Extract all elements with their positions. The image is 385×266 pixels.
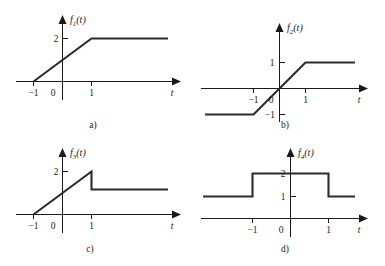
curve-c	[34, 172, 169, 215]
function-arg-c: (t)	[76, 147, 86, 159]
y-tick-label-c-2: 2	[54, 167, 59, 177]
x-axis-label-d: t	[358, 225, 361, 235]
x-tick-label-c-neg1: −1	[28, 221, 38, 231]
y-tick-label-b-1: 1	[270, 58, 275, 68]
curve-d	[203, 174, 355, 197]
figure-canvas: −1 0 1 2 t f1(t) a)	[0, 0, 385, 266]
panel-a: −1 0 1 2 t f1(t) a)	[0, 0, 192, 133]
y-tick-label-a-2: 2	[54, 34, 59, 44]
x-tick-label-b-1: 1	[303, 95, 308, 105]
x-tick-label-c-0: 0	[51, 221, 56, 231]
y-tick-label-d-1: 1	[281, 192, 286, 202]
x-tick-label-a-neg1: −1	[28, 88, 38, 98]
caption-d: d)	[281, 244, 289, 255]
caption-c: c)	[86, 244, 93, 255]
y-axis-arrow-d	[287, 148, 295, 157]
x-axis-label-b: t	[358, 95, 361, 105]
x-tick-label-c-1: 1	[89, 221, 94, 231]
function-label-c: f3(t)	[70, 147, 86, 161]
panel-d: −1 0 1 2 1 t f4(t) d)	[193, 133, 385, 266]
x-tick-label-d-neg1: −1	[247, 225, 257, 235]
function-arg-b: (t)	[293, 22, 303, 34]
x-axis-arrow-d	[359, 215, 368, 223]
function-label-b: f2(t)	[287, 22, 303, 36]
function-label-a: f1(t)	[70, 14, 86, 28]
x-tick-label-b-neg1: −1	[248, 95, 258, 105]
y-axis-arrow-a	[59, 15, 67, 24]
panel-c: −1 0 1 2 t f3(t) c)	[0, 133, 192, 266]
caption-a: a)	[89, 120, 96, 131]
function-arg-d: (t)	[304, 147, 314, 159]
x-axis-label-a: t	[171, 88, 174, 98]
panel-b: −1 0 1 1 −1 t f2(t) b)	[193, 0, 385, 133]
x-axis-label-c: t	[171, 221, 174, 231]
x-axis-arrow-a	[172, 78, 181, 86]
x-tick-label-a-0: 0	[51, 88, 56, 98]
function-label-d: f4(t)	[298, 147, 314, 161]
function-arg-a: (t)	[76, 14, 86, 26]
x-tick-label-b-0: 0	[269, 95, 274, 105]
y-axis-arrow-b	[276, 23, 284, 32]
caption-b: b)	[281, 120, 289, 131]
y-axis-arrow-c	[59, 148, 67, 157]
x-tick-label-d-1: 1	[326, 225, 331, 235]
curve-a	[34, 39, 169, 82]
x-tick-label-d-0: 0	[279, 225, 284, 235]
x-axis-arrow-b	[359, 85, 368, 93]
y-tick-label-b-neg1: −1	[265, 110, 275, 120]
x-tick-label-a-1: 1	[89, 88, 94, 98]
x-axis-arrow-c	[172, 211, 181, 219]
y-tick-label-d-2: 2	[281, 169, 286, 179]
